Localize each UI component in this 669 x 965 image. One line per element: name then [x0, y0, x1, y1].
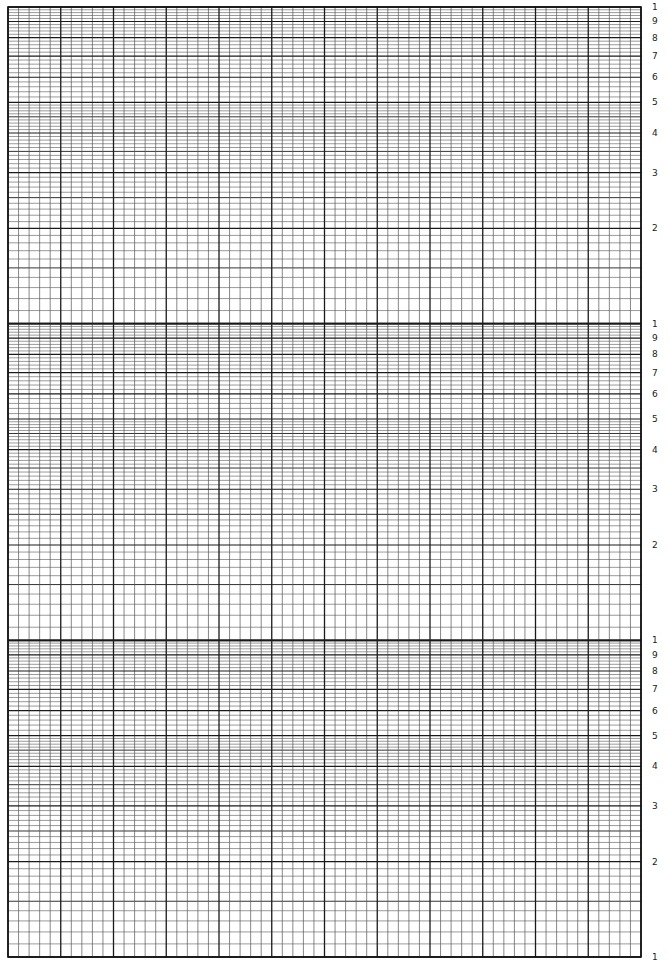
log-tick-label: 2 [652, 223, 658, 233]
log-tick-label: 5 [652, 731, 658, 741]
log-tick-label: 8 [652, 33, 658, 43]
log-tick-label: 4 [652, 761, 658, 771]
log-tick-label: 3 [652, 484, 658, 494]
log-tick-label: 3 [652, 801, 658, 811]
bottom-label: 1 [652, 952, 658, 962]
log-tick-label: 7 [652, 51, 658, 61]
log-tick-label: 9 [652, 650, 658, 660]
decade-label: 1 [652, 319, 658, 329]
log-tick-label: 3 [652, 168, 658, 178]
log-tick-label: 2 [652, 540, 658, 550]
decade-label: 1 [652, 2, 658, 12]
log-tick-label: 6 [652, 72, 658, 82]
log-tick-label: 8 [652, 349, 658, 359]
log-tick-label: 9 [652, 16, 658, 26]
log-scale-labels: 2345678912345678912345678911 [652, 2, 658, 962]
log-tick-label: 6 [652, 706, 658, 716]
log-tick-label: 7 [652, 368, 658, 378]
semi-log-graph-paper: 2345678912345678912345678911 [0, 0, 669, 965]
log-tick-label: 5 [652, 414, 658, 424]
log-tick-label: 4 [652, 128, 658, 138]
log-tick-label: 7 [652, 684, 658, 694]
log-tick-label: 8 [652, 666, 658, 676]
log-tick-label: 9 [652, 333, 658, 343]
log-tick-label: 4 [652, 445, 658, 455]
decade-label: 1 [652, 635, 658, 645]
log-tick-label: 2 [652, 857, 658, 867]
log-tick-label: 5 [652, 97, 658, 107]
log-tick-label: 6 [652, 389, 658, 399]
